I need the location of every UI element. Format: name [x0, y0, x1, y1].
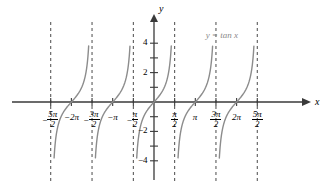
x-tick-label-3: −π [107, 112, 118, 122]
x-tick-label-8: 2π [232, 112, 241, 122]
y-tick-label-7: −4 [138, 156, 148, 165]
curve-equation-label: y = tan x [206, 31, 238, 40]
x-tick-label-6: π [193, 112, 198, 122]
y-tick-label-2: 2 [143, 68, 148, 77]
x-tick-label-9: 5π2 [252, 110, 263, 129]
x-tick-label-2: 3π2 [89, 110, 100, 129]
x-axis-arrow [302, 98, 311, 106]
y-tick-label-5: −2 [138, 126, 148, 135]
x-tick-label-7: 3π2 [210, 110, 221, 129]
tangent-graph-figure: xyy = tan x5π2−−2π3π2−−ππ2−π2π3π22π5π242… [0, 0, 327, 192]
x-tick-label-1: −2π [64, 112, 79, 122]
x-tick-label-5: π2 [171, 110, 178, 129]
x-tick-label-0: 5π2 [47, 110, 58, 129]
plot-canvas [0, 0, 327, 192]
y-tick-label-0: 4 [143, 38, 148, 47]
x-axis-label: x [315, 97, 319, 107]
x-tick-label-sign-2: − [84, 115, 89, 125]
y-axis-arrow [150, 14, 158, 22]
y-axis-label: y [159, 4, 163, 14]
x-tick-label-sign-4: − [127, 115, 132, 125]
x-tick-label-sign-0: − [42, 115, 47, 125]
